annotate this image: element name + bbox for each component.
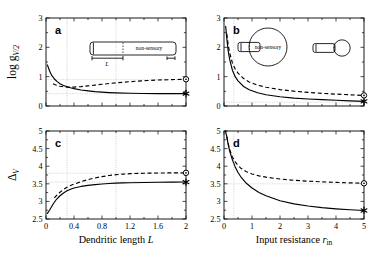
- x-tick-label: 1: [250, 222, 254, 231]
- curve-d-nonsensory: [227, 137, 364, 184]
- x-tick-label: 0.8: [97, 222, 107, 231]
- y-tick-label: 5: [216, 127, 220, 136]
- curve-a-nonsensory: [53, 79, 186, 87]
- y-tick-label: 2: [216, 43, 220, 52]
- x-tick-label: 4: [334, 222, 338, 231]
- y-tick-label: 2.5: [32, 215, 42, 224]
- circle-marker-center: [363, 95, 365, 97]
- curve-c-sensory: [47, 182, 186, 213]
- y-tick-label: 3: [38, 14, 42, 23]
- x-tick-label: 2: [184, 222, 188, 231]
- x-tick-label: 3: [306, 222, 310, 231]
- svg-text:log gV/2: log gV/2: [6, 45, 21, 79]
- y-tick-label: 5: [38, 127, 42, 136]
- curve-d-sensory: [225, 131, 364, 210]
- y-axis-title-bottom: ΔV: [6, 168, 21, 181]
- x-tick-label: 0: [44, 222, 48, 231]
- x-tick-label: 2: [278, 222, 282, 231]
- svg-text:ΔV: ΔV: [6, 168, 21, 181]
- y-tick-label: 3.5: [210, 180, 220, 189]
- y-tick-label: 0: [38, 102, 42, 111]
- y-tick-label: 1: [38, 73, 42, 82]
- panel-letter-c: c: [55, 137, 61, 149]
- soma-large-label: non-sensory: [255, 44, 282, 50]
- x-axis-title-left: Dendritic length L: [79, 234, 154, 245]
- panel-c: 00.40.81.21.622.533.544.55c: [32, 127, 189, 231]
- y-tick-label: 4.5: [32, 145, 42, 154]
- y-tick-label: 2: [38, 43, 42, 52]
- x-axis-title-right: Input resistance rin: [256, 234, 333, 247]
- x-tick-label: 1.6: [153, 222, 163, 231]
- circle-marker-center: [363, 182, 365, 184]
- x-tick-label: 0.4: [69, 222, 79, 231]
- soma-small: [334, 40, 350, 56]
- cable-nonsensory-label: non-sensory: [136, 45, 163, 51]
- inset-ballstick-diagrams: non-sensory: [238, 28, 350, 66]
- inset-cable-diagram: non-sensoryL: [90, 42, 176, 67]
- y-tick-label: 2.5: [210, 215, 220, 224]
- y-tick-label: 3: [216, 197, 220, 206]
- y-tick-label: 1: [216, 73, 220, 82]
- y-tick-label: 3.5: [32, 180, 42, 189]
- curve-b-nonsensory: [227, 34, 364, 96]
- circle-marker-center: [185, 172, 187, 174]
- y-tick-label: 4.5: [210, 145, 220, 154]
- panel-letter-d: d: [233, 137, 240, 149]
- y-tick-label: 0: [216, 102, 220, 111]
- panel-d: 0123452.533.544.55d: [210, 127, 367, 231]
- x-tick-label: 5: [362, 222, 366, 231]
- circle-marker-center: [185, 78, 187, 80]
- panel-letter-b: b: [233, 24, 240, 36]
- figure-svg: 0123a0123b00.40.81.21.622.533.544.55c012…: [0, 0, 373, 258]
- y-tick-label: 4: [38, 162, 42, 171]
- figure-container: 0123a0123b00.40.81.21.622.533.544.55c012…: [0, 0, 373, 258]
- y-tick-label: 3: [216, 14, 220, 23]
- y-tick-label: 3: [38, 197, 42, 206]
- panel-a: 0123a: [38, 14, 188, 111]
- cable-body: [90, 42, 176, 55]
- plot-frame-b: [224, 18, 364, 106]
- curve-c-nonsensory: [54, 173, 186, 198]
- y-axis-title-top: log gV/2: [6, 45, 21, 79]
- cable-length-symbol: L: [104, 60, 109, 67]
- panel-b: 0123b: [216, 14, 366, 111]
- plot-frame-d: [224, 131, 364, 219]
- y-tick-label: 4: [216, 162, 220, 171]
- curve-b-sensory: [226, 26, 364, 101]
- x-tick-label: 0: [222, 222, 226, 231]
- x-tick-label: 1.2: [125, 222, 135, 231]
- panel-letter-a: a: [55, 24, 62, 36]
